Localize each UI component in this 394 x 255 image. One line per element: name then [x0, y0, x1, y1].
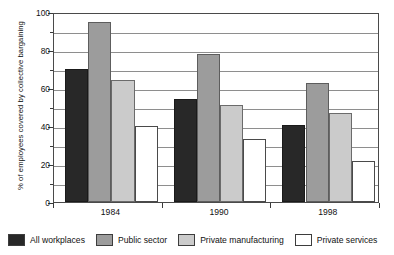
y-axis-title: % of employees covered by collective bar…: [16, 8, 25, 204]
legend-label: Private manufacturing: [200, 235, 284, 245]
legend-swatch-icon: [8, 234, 25, 246]
x-axis-tick: [53, 203, 54, 208]
legend-item-private-services[interactable]: Private services: [295, 234, 378, 246]
bar-1990-private-services: [243, 139, 266, 202]
x-axis-tick: [379, 203, 380, 208]
bar-1990-private-manufacturing: [220, 105, 243, 202]
x-axis-label-1984: 1984: [75, 207, 145, 217]
bar-1998-public-sector: [306, 83, 329, 202]
bar-1984-private-services: [135, 126, 158, 202]
x-axis-label-1990: 1990: [184, 207, 254, 217]
bar-1990-public-sector: [197, 54, 220, 202]
legend-swatch-icon: [96, 234, 113, 246]
bar-1984-public-sector: [88, 22, 111, 203]
y-axis-tick-label: 60: [22, 84, 50, 94]
x-axis-label-1998: 1998: [293, 207, 363, 217]
bar-1984-all-workplaces: [65, 69, 88, 202]
legend-label: Private services: [317, 235, 378, 245]
legend-label: Public sector: [118, 235, 167, 245]
legend-item-all-workplaces[interactable]: All workplaces: [8, 234, 85, 246]
chart-legend: All workplacesPublic sectorPrivate manuf…: [8, 231, 390, 249]
y-axis-tick-label: 80: [22, 46, 50, 56]
legend-item-private-manufacturing[interactable]: Private manufacturing: [178, 234, 284, 246]
plot-area: [53, 13, 379, 203]
y-axis-tick-label: 0: [22, 198, 50, 208]
bar-1984-private-manufacturing: [111, 80, 134, 203]
legend-label: All workplaces: [30, 235, 85, 245]
bar-chart-figure: % of employees covered by collective bar…: [0, 0, 394, 255]
x-axis-tick: [270, 203, 271, 208]
bar-1990-all-workplaces: [174, 99, 197, 202]
y-axis-tick-label: 20: [22, 160, 50, 170]
y-axis-tick-label: 100: [22, 8, 50, 18]
y-axis-tick-label: 40: [22, 122, 50, 132]
bar-1998-private-manufacturing: [329, 113, 352, 202]
legend-item-public-sector[interactable]: Public sector: [96, 234, 167, 246]
legend-swatch-icon: [295, 234, 312, 246]
legend-swatch-icon: [178, 234, 195, 246]
x-axis-tick: [162, 203, 163, 208]
bar-1998-private-services: [352, 161, 375, 202]
bar-1998-all-workplaces: [282, 125, 305, 202]
